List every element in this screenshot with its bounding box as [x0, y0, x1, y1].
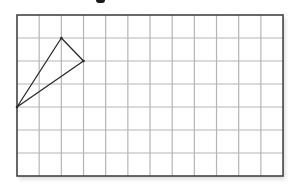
- grid-diagram: [0, 0, 294, 187]
- triangle-vertex: [16, 106, 19, 109]
- triangle-vertex: [82, 60, 85, 63]
- triangle-vertex: [60, 37, 63, 40]
